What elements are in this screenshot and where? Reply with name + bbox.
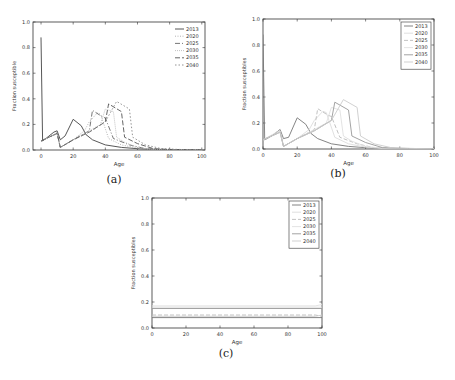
legend-label: 2013: [303, 202, 316, 208]
chart-b: 0204060801000.00.20.40.60.81.0AgeFractio…: [241, 16, 439, 167]
caption-a: (a): [106, 173, 121, 186]
x-tick-label: 20: [183, 331, 189, 337]
series-line-2035: [263, 102, 434, 149]
legend-label: 2020: [186, 33, 199, 39]
legend-label: 2030: [303, 223, 316, 229]
y-tick-label: 0.0: [22, 147, 30, 153]
legend-label: 2013: [186, 26, 199, 32]
x-tick-label: 100: [429, 152, 439, 158]
legend-label: 2025: [415, 37, 428, 43]
caption-b: (b): [330, 167, 346, 180]
legend-label: 2030: [415, 44, 428, 50]
legend-label: 2030: [186, 47, 199, 53]
x-tick-label: 0: [261, 152, 264, 158]
x-tick-label: 80: [397, 152, 403, 158]
y-tick-label: 0.0: [252, 146, 260, 152]
y-tick-label: 1.0: [252, 16, 260, 22]
y-tick-label: 0.8: [141, 221, 149, 227]
legend-label: 2040: [415, 59, 428, 65]
series-line-2040: [41, 101, 202, 150]
x-tick-label: 40: [102, 153, 108, 159]
y-tick-label: 0.0: [141, 325, 149, 331]
legend: 201320202025203020352040: [289, 201, 319, 248]
y-tick-label: 0.4: [141, 273, 149, 279]
y-tick-label: 0.8: [252, 42, 260, 48]
x-tick-label: 0: [39, 153, 42, 159]
legend: 201320202025203020352040: [175, 26, 199, 68]
x-tick-label: 20: [70, 153, 76, 159]
x-tick-label: 60: [251, 331, 257, 337]
x-tick-label: 100: [197, 153, 207, 159]
y-tick-label: 0.8: [22, 44, 30, 50]
legend-label: 2035: [303, 230, 316, 236]
x-tick-label: 20: [294, 152, 300, 158]
x-tick-label: 60: [134, 153, 140, 159]
chart-c: 0204060801000.00.20.40.60.81.0AgeFractio…: [130, 195, 327, 346]
y-tick-label: 0.2: [141, 299, 149, 305]
legend-label: 2025: [303, 216, 316, 222]
y-tick-label: 0.4: [22, 96, 30, 102]
series-line-2035: [41, 104, 202, 150]
legend: 201320202025203020352040: [401, 22, 431, 69]
x-axis-label: Age: [114, 161, 125, 168]
y-axis-label: Fraction susceptible: [11, 61, 18, 111]
x-tick-label: 40: [217, 331, 223, 337]
series-line-2030: [263, 107, 434, 149]
y-tick-label: 0.4: [252, 94, 260, 100]
caption-c: (c): [219, 347, 234, 360]
legend-label: 2040: [303, 238, 316, 244]
legend-label: 2040: [186, 62, 199, 68]
y-tick-label: 0.6: [252, 68, 260, 74]
x-tick-label: 80: [285, 331, 291, 337]
series-line-2013: [41, 37, 202, 150]
y-tick-label: 0.6: [141, 247, 149, 253]
figure: 0204060801000.00.20.40.60.81.0AgeFractio…: [0, 0, 455, 380]
y-tick-label: 1.0: [22, 19, 30, 25]
x-tick-label: 0: [150, 331, 153, 337]
x-tick-label: 60: [362, 152, 368, 158]
x-axis-label: Age: [232, 339, 243, 346]
legend-label: 2035: [186, 54, 199, 60]
series-line-2040: [263, 100, 434, 149]
legend-label: 2025: [186, 40, 199, 46]
x-tick-label: 40: [328, 152, 334, 158]
y-tick-label: 0.2: [22, 121, 30, 127]
x-tick-label: 100: [317, 331, 327, 337]
y-axis-label: Fraction susceptibles: [130, 236, 137, 289]
legend-label: 2013: [415, 23, 428, 29]
series-line-2030: [152, 305, 322, 306]
x-axis-label: Age: [343, 160, 354, 167]
legend-label: 2020: [303, 209, 316, 215]
y-axis-label: Fraction susceptibles: [241, 57, 248, 110]
chart-a: 0204060801000.00.20.40.60.81.0AgeFractio…: [11, 19, 207, 168]
axes-frame: [33, 22, 205, 150]
x-tick-label: 80: [166, 153, 172, 159]
legend-label: 2020: [415, 30, 428, 36]
y-tick-label: 0.2: [252, 120, 260, 126]
y-tick-label: 1.0: [141, 195, 149, 201]
y-tick-label: 0.6: [22, 70, 30, 76]
legend-label: 2035: [415, 51, 428, 57]
